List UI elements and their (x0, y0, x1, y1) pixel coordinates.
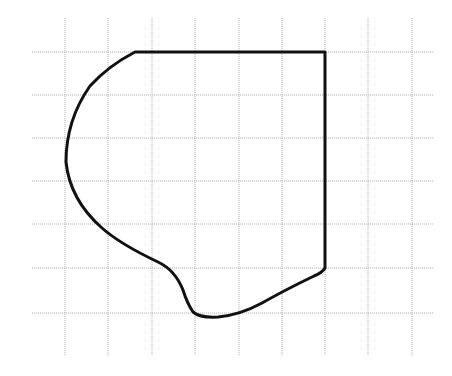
grid-figure-diagram (0, 0, 452, 376)
grid (32, 18, 434, 356)
